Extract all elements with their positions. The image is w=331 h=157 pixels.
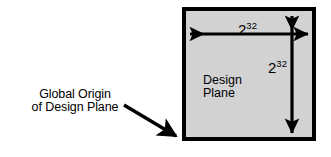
design-plane-label: Design Plane bbox=[203, 74, 242, 100]
horizontal-dimension-exponent: 32 bbox=[246, 20, 257, 31]
global-origin-callout-label: Global Origin of Design Plane bbox=[14, 88, 136, 114]
diagram-canvas: 232 232 Design Plane Global Origin of De… bbox=[0, 0, 331, 157]
vertical-dimension-exponent: 32 bbox=[276, 58, 287, 69]
global-origin-callout-line-2: of Design Plane bbox=[14, 101, 136, 114]
design-plane-label-line-2: Plane bbox=[203, 87, 242, 100]
diagram-graphics bbox=[0, 0, 331, 157]
vertical-dimension-label: 232 bbox=[268, 60, 287, 76]
horizontal-dimension-label: 232 bbox=[238, 22, 257, 38]
